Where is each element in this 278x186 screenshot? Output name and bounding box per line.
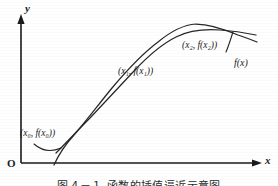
- curve-f-of-x: [56, 30, 256, 153]
- point-label-x2: (x₂, f(x₂)): [182, 41, 217, 51]
- point-label-x1: (x₁, f(x₁)): [118, 67, 153, 77]
- pointer-to-point0: [34, 144, 61, 150]
- figure-interpolation-diagram: y x O (x₀, f(x₀)) (x₁, f(x₁)) (x₂, f(x₂)…: [0, 0, 278, 186]
- origin-label: O: [7, 158, 16, 169]
- x-axis: [21, 159, 262, 166]
- function-label-fx: f(x): [234, 58, 248, 68]
- figure-caption: 图４－１ 函数的插值逼近示意图: [0, 177, 278, 186]
- x-axis-arrow-icon: [252, 159, 262, 166]
- pointer-to-point2: [226, 32, 233, 52]
- diagram-canvas: [0, 0, 278, 186]
- y-axis-label: y: [25, 3, 30, 14]
- x-axis-label: x: [265, 155, 271, 166]
- curve-interpolating-polynomial: [54, 24, 257, 165]
- point-label-x0: (x₀, f(x₀)): [20, 129, 55, 139]
- y-axis-arrow-icon: [17, 14, 24, 24]
- y-axis: [17, 14, 24, 163]
